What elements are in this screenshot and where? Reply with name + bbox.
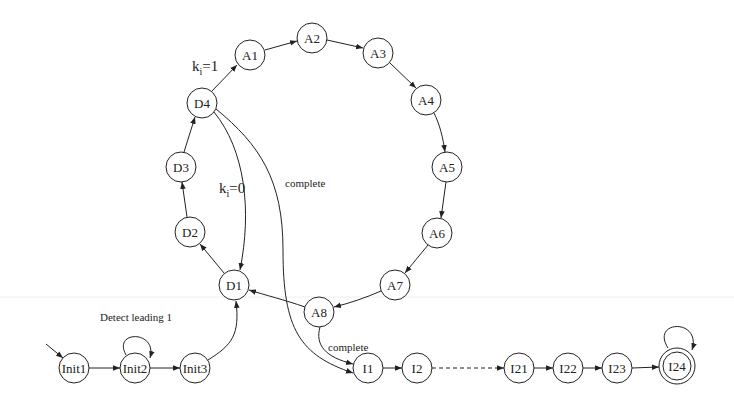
state-i22: I22 [553, 353, 583, 383]
state-init3: Init3 [180, 353, 210, 383]
edge-a1-a2 [265, 41, 297, 50]
state-d2: D2 [175, 217, 205, 247]
state-i23: I23 [602, 353, 632, 383]
state-a5: A5 [432, 152, 462, 182]
state-a2: A2 [297, 23, 327, 53]
state-i1: I1 [353, 353, 383, 383]
state-i21: I21 [504, 353, 534, 383]
state-label: D4 [194, 96, 210, 111]
state-label: Init1 [62, 361, 87, 376]
state-i24-accepting: I24 [659, 348, 695, 384]
state-label: I24 [668, 359, 686, 374]
state-label: A2 [304, 31, 320, 46]
label-eq-value: =0 [229, 180, 245, 196]
state-a6: A6 [422, 218, 452, 248]
state-label: A5 [439, 160, 455, 175]
state-label: A4 [418, 93, 434, 108]
state-label: I22 [559, 361, 576, 376]
state-label: D2 [182, 225, 198, 240]
label-complete-d4: complete [285, 177, 325, 189]
state-i2: I2 [402, 353, 432, 383]
state-init1: Init1 [59, 353, 89, 383]
state-label: I21 [510, 361, 527, 376]
edge-a8-d1 [249, 290, 305, 307]
state-label: Init3 [183, 361, 208, 376]
edge-d1-d2 [200, 244, 224, 273]
edge-a7-a8 [334, 291, 381, 307]
state-label: A1 [242, 48, 258, 63]
edge-i24-selfloop [664, 327, 693, 351]
state-label: A8 [311, 305, 327, 320]
state-d1: D1 [219, 270, 249, 300]
state-label: A3 [370, 46, 386, 61]
label-eq-value: =1 [202, 58, 218, 74]
label-ki-equals-1: ki=1 [192, 58, 218, 77]
edge-a3-a4 [390, 63, 416, 88]
edge-i23-i24 [632, 367, 659, 368]
nodes: Init1 Init2 Init3 D1 D2 D3 D4 A1 A2 A3 A… [59, 23, 695, 384]
edge-a6-a7 [405, 245, 428, 273]
edge-d3-d4 [184, 117, 195, 152]
edge-d4-i1 [216, 109, 353, 373]
state-label: A7 [387, 278, 403, 293]
state-label: D3 [173, 160, 189, 175]
edges [46, 40, 693, 373]
edge-init3-d1 [208, 301, 237, 360]
edge-a4-a5 [434, 113, 445, 152]
state-label: A6 [429, 226, 445, 241]
state-init2: Init2 [120, 353, 150, 383]
edge-d2-d3 [182, 182, 187, 217]
edge-a2-a3 [327, 40, 363, 48]
state-d3: D3 [166, 152, 196, 182]
edge-a5-a6 [441, 182, 446, 218]
state-a1: A1 [235, 40, 265, 70]
state-a8: A8 [304, 297, 334, 327]
state-label: I2 [412, 361, 423, 376]
label-ki-equals-0: ki=0 [219, 180, 245, 199]
label-detect-leading: Detect leading 1 [100, 311, 172, 323]
state-a3: A3 [363, 38, 393, 68]
state-diagram: Init1 Init2 Init3 D1 D2 D3 D4 A1 A2 A3 A… [0, 0, 734, 410]
state-a4: A4 [411, 85, 441, 115]
state-d4: D4 [187, 88, 217, 118]
state-label: I1 [363, 361, 374, 376]
state-label: Init2 [123, 361, 148, 376]
state-label: D1 [226, 278, 242, 293]
edge-start-init1 [46, 344, 63, 358]
state-label: I23 [608, 361, 625, 376]
label-complete-a8: complete [328, 341, 368, 353]
state-a7: A7 [380, 270, 410, 300]
